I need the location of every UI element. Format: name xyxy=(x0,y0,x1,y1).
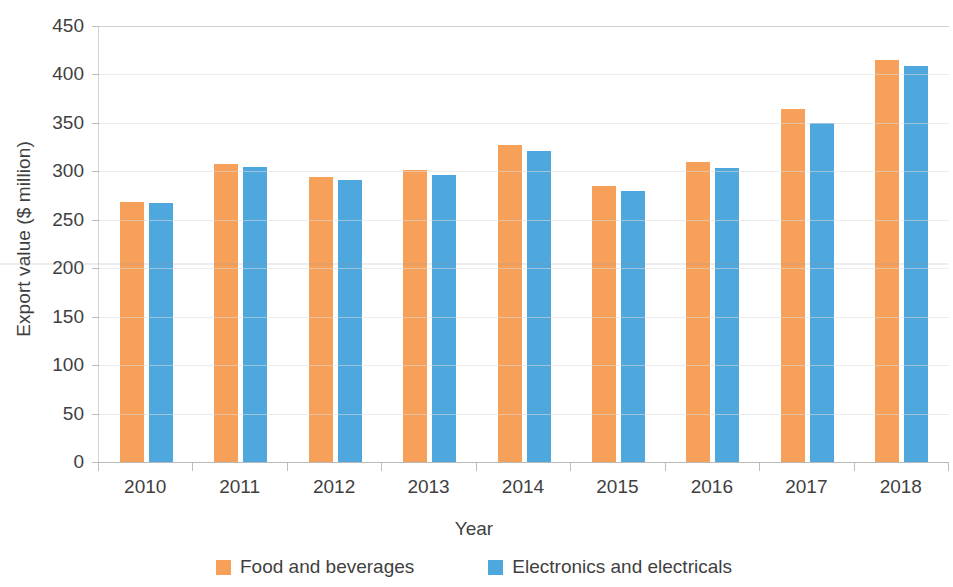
y-axis-tick-label: 400 xyxy=(22,63,84,85)
x-axis-tick-mark xyxy=(192,462,193,471)
bar-electronics-2012[interactable] xyxy=(338,180,362,462)
bar-electronics-2014[interactable] xyxy=(527,151,551,462)
bar-food-2016[interactable] xyxy=(686,162,710,462)
legend-label-electronics: Electronics and electricals xyxy=(512,556,732,578)
gridline xyxy=(99,74,949,75)
gridline xyxy=(99,414,949,415)
y-axis-tick-mark xyxy=(92,414,99,415)
gridline xyxy=(99,220,949,221)
y-axis-tick-label: 300 xyxy=(22,160,84,182)
x-axis-title: Year xyxy=(0,518,948,540)
x-axis-tick-mark xyxy=(665,462,666,471)
y-axis-tick-mark xyxy=(92,74,99,75)
x-axis-tick-mark xyxy=(759,462,760,471)
gridline xyxy=(99,123,949,124)
y-axis-tick-label: 0 xyxy=(22,451,84,473)
bar-food-2018[interactable] xyxy=(875,60,899,462)
x-axis-tick-mark xyxy=(98,462,99,471)
y-axis-tick-mark xyxy=(92,171,99,172)
y-axis-tick-label: 200 xyxy=(22,257,84,279)
gridline xyxy=(99,26,949,27)
gridline xyxy=(99,268,949,269)
y-axis-tick-label: 100 xyxy=(22,354,84,376)
legend-item-electronics[interactable]: Electronics and electricals xyxy=(488,556,732,578)
legend-item-food[interactable]: Food and beverages xyxy=(216,556,414,578)
y-axis-tick-label: 150 xyxy=(22,306,84,328)
bar-electronics-2017[interactable] xyxy=(810,123,834,462)
x-axis-tick-mark xyxy=(948,462,949,471)
bar-food-2017[interactable] xyxy=(781,109,805,462)
x-axis-line xyxy=(98,462,949,463)
bar-electronics-2016[interactable] xyxy=(715,168,739,462)
y-axis-tick-mark xyxy=(92,26,99,27)
gridline xyxy=(99,365,949,366)
y-axis-tick-mark xyxy=(92,268,99,269)
bar-food-2015[interactable] xyxy=(592,186,616,462)
legend-swatch-food-icon xyxy=(216,560,231,575)
gridline xyxy=(99,317,949,318)
y-axis-tick-mark xyxy=(92,365,99,366)
bar-food-2010[interactable] xyxy=(120,202,144,462)
gridline xyxy=(99,171,949,172)
bar-electronics-2013[interactable] xyxy=(432,175,456,462)
y-axis-tick-labels: 050100150200250300350400450 xyxy=(22,0,84,587)
bar-food-2011[interactable] xyxy=(214,164,238,462)
legend-swatch-electronics-icon xyxy=(488,560,503,575)
plot-area xyxy=(98,26,949,462)
y-axis-tick-label: 50 xyxy=(22,403,84,425)
y-axis-tick-mark xyxy=(92,123,99,124)
chart-legend: Food and beverages Electronics and elect… xyxy=(0,556,948,578)
legend-label-food: Food and beverages xyxy=(240,556,414,578)
x-axis-tick-mark xyxy=(287,462,288,471)
x-axis-tick-label-2018: 2018 xyxy=(841,476,953,498)
x-axis-tick-mark xyxy=(381,462,382,471)
y-axis-tick-label: 250 xyxy=(22,209,84,231)
bar-electronics-2015[interactable] xyxy=(621,191,645,462)
y-axis-tick-label: 350 xyxy=(22,112,84,134)
bar-electronics-2010[interactable] xyxy=(149,203,173,462)
y-axis-tick-mark xyxy=(92,220,99,221)
x-axis-tick-mark xyxy=(570,462,571,471)
bar-electronics-2011[interactable] xyxy=(243,167,267,463)
y-axis-tick-label: 450 xyxy=(22,15,84,37)
bar-electronics-2018[interactable] xyxy=(904,66,928,462)
y-axis-tick-mark xyxy=(92,317,99,318)
x-axis-tick-mark xyxy=(854,462,855,471)
x-axis-tick-mark xyxy=(476,462,477,471)
